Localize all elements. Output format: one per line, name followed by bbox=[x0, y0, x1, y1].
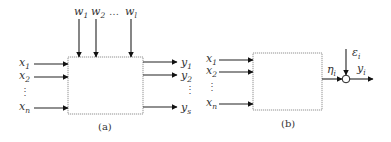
panel-a: w1 w2 … wl x1 x2 ⋮ xn y1 bbox=[19, 5, 195, 132]
right-output-y2: y2 bbox=[143, 69, 192, 84]
figure-canvas: w1 w2 … wl x1 x2 ⋮ xn y1 bbox=[0, 0, 391, 142]
left-input-x1-a: x1 bbox=[19, 56, 68, 71]
top-ellipsis-a: … bbox=[109, 6, 119, 17]
left-ellipsis-a: ⋮ bbox=[20, 86, 30, 97]
left-input-xn-b: xn bbox=[206, 96, 253, 111]
system-box-b bbox=[253, 53, 322, 110]
right-output-ys: ys bbox=[143, 101, 191, 116]
summing-junction bbox=[342, 75, 350, 83]
left-input-x1-b: x1 bbox=[206, 52, 253, 67]
svg-text:ηi: ηi bbox=[327, 63, 337, 78]
svg-text:w1: w1 bbox=[74, 5, 88, 20]
top-input-w1: w1 bbox=[74, 5, 88, 57]
svg-text:wl: wl bbox=[125, 5, 137, 20]
left-ellipsis-b: ⋮ bbox=[207, 81, 217, 92]
panel-b: x1 x2 ⋮ xn ηi εi yi (b) bbox=[206, 46, 373, 129]
right-ellipsis-a: ⋮ bbox=[185, 84, 195, 95]
svg-text:yi: yi bbox=[356, 62, 366, 77]
svg-text:xn: xn bbox=[19, 100, 30, 115]
caption-b: (b) bbox=[281, 118, 295, 129]
caption-a: (a) bbox=[98, 121, 112, 132]
svg-text:xn: xn bbox=[206, 96, 217, 111]
left-input-xn-a: xn bbox=[19, 100, 68, 115]
svg-text:εi: εi bbox=[352, 46, 361, 61]
intermediate-eta: ηi bbox=[322, 63, 342, 79]
svg-text:ys: ys bbox=[180, 101, 191, 116]
system-box-a bbox=[68, 57, 143, 114]
svg-text:w2: w2 bbox=[91, 5, 105, 20]
svg-text:x2: x2 bbox=[19, 69, 30, 84]
top-input-wl: wl bbox=[125, 5, 137, 57]
output-yi: yi bbox=[350, 62, 373, 79]
left-input-x2-a: x2 bbox=[19, 69, 68, 84]
top-input-w2: w2 bbox=[91, 5, 105, 57]
svg-text:y2: y2 bbox=[180, 69, 192, 84]
